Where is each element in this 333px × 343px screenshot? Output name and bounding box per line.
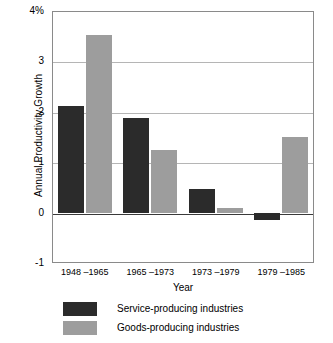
productivity-growth-bar-chart: Annual Productivity Growth 4%3210-1 1948… [0, 0, 333, 343]
legend-item-goods: Goods-producing industries [63, 319, 323, 338]
legend-swatch-goods-icon [63, 321, 97, 335]
y-tick-label: -1 [0, 258, 44, 268]
bar-service-2 [189, 189, 215, 213]
bar-goods-0 [86, 35, 112, 212]
bar-goods-1 [151, 150, 177, 213]
bars-layer [52, 11, 314, 263]
y-tick-label: 0 [0, 208, 44, 218]
chart-legend: Service-producing industries Goods-produ… [63, 300, 323, 338]
y-tick-label: 3 [0, 56, 44, 66]
bar-service-3 [254, 213, 280, 221]
bar-goods-2 [217, 208, 243, 213]
legend-label-goods: Goods-producing industries [117, 321, 239, 335]
bar-service-0 [58, 106, 84, 213]
x-axis-title: Year [52, 282, 314, 293]
legend-label-service: Service-producing industries [117, 302, 243, 316]
y-tick-label: 4% [0, 6, 44, 16]
y-tick-label: 1 [0, 157, 44, 167]
legend-swatch-service-icon [63, 302, 97, 316]
y-tick-label: 2 [0, 107, 44, 117]
x-tick-label: 1979 –1985 [236, 267, 326, 277]
bar-goods-3 [282, 137, 308, 213]
bar-service-1 [123, 118, 149, 213]
legend-item-service: Service-producing industries [63, 300, 323, 319]
